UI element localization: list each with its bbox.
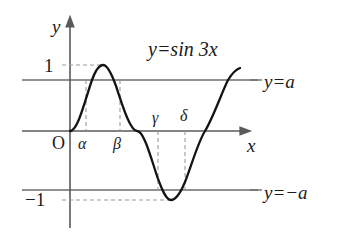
- root-label-beta: β: [113, 136, 121, 152]
- root-label-delta: δ: [180, 108, 187, 124]
- y-tick-label-negative-one: −1: [25, 190, 45, 209]
- sine-curve: [70, 65, 240, 200]
- y-axis-label: y: [52, 17, 60, 36]
- line-a-equation-label: y=a: [264, 72, 295, 91]
- y-tick-label-one: 1: [44, 56, 54, 75]
- root-label-gamma: γ: [152, 110, 158, 126]
- origin-label: O: [52, 134, 65, 152]
- x-axis-label: x: [247, 136, 255, 155]
- math-figure: y x O 1 −1 α β γ δ y=sin 3x y=a y=−a: [0, 0, 345, 252]
- curve-equation-label: y=sin 3x: [148, 39, 218, 59]
- line-negative-a-equation-label: y=−a: [264, 183, 308, 202]
- root-label-alpha: α: [78, 136, 86, 152]
